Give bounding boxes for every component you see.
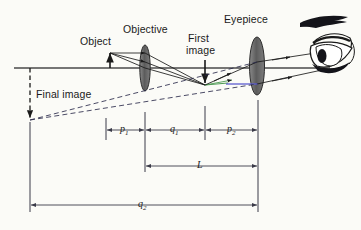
optics-diagram-canvas: Object Objective First image Eyepiece Fi…	[0, 0, 361, 230]
dimension-label-q2: q2	[138, 198, 147, 212]
first-image-label-line2: image	[186, 45, 215, 56]
first-image-label-line1: First	[188, 33, 209, 44]
objective-label: Objective	[123, 24, 168, 35]
dimension-label-p1: p1	[120, 123, 129, 137]
diagram-vector-layer	[0, 0, 361, 230]
dimension-label-p2: p2	[227, 123, 236, 137]
objective-ray-bundle	[110, 53, 205, 85]
dimension-ticks	[30, 100, 258, 212]
final-image-label: Final image	[36, 89, 91, 100]
dimension-label-q1: q1	[170, 123, 179, 137]
eyepiece-label: Eyepiece	[224, 14, 268, 25]
object-label: Object	[80, 36, 111, 47]
eyepiece-lens	[250, 37, 265, 95]
dimension-label-L: L	[197, 159, 203, 170]
eye-illustration	[300, 16, 354, 73]
